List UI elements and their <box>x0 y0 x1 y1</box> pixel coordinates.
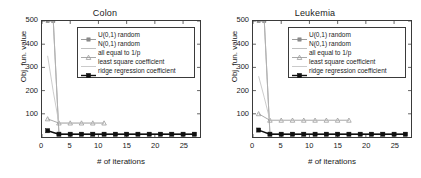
y-tick-label: 400 <box>219 40 249 48</box>
y-axis-label-colon: Obj. fun. value <box>19 18 28 96</box>
x-tick-label: 15 <box>117 142 137 150</box>
legend-marker-icon <box>291 48 308 57</box>
x-tick-label: 5 <box>271 142 291 150</box>
x-tick-label: 0 <box>242 142 262 150</box>
legend-leukemia: U(0,1) randomN(0,1) randomall equal to 1… <box>288 27 406 78</box>
x-tick-label: 0 <box>31 142 51 150</box>
y-tick-label: 300 <box>8 63 38 71</box>
legend-label: N(0,1) random <box>308 39 351 48</box>
x-axis-label-colon: # of iterations <box>41 157 201 166</box>
legend-marker-icon <box>80 48 97 57</box>
legend-marker-icon <box>291 30 308 39</box>
legend-marker-icon <box>80 57 97 66</box>
x-tick-label: 20 <box>356 142 376 150</box>
legend-item: least square coefficient <box>80 57 192 66</box>
x-tick-label: 10 <box>88 142 108 150</box>
y-tick-label: 200 <box>219 87 249 95</box>
legend-marker-icon <box>291 66 308 75</box>
y-tick-label: 100 <box>219 110 249 118</box>
legend-marker-icon <box>291 57 308 66</box>
legend-label: all equal to 1/p <box>308 48 351 57</box>
legend-item: all equal to 1/p <box>291 48 403 57</box>
legend-label: U(0,1) random <box>97 30 140 39</box>
panel-leukemia: Leukemia Obj. fun. value # of iterations… <box>210 0 420 178</box>
legend-label: all equal to 1/p <box>97 48 140 57</box>
legend-label: ridge regression coefficient <box>97 66 176 75</box>
legend-label: N(0,1) random <box>97 39 140 48</box>
y-axis-label-leukemia: Obj. fun. value <box>230 18 239 96</box>
panel-colon: Colon Obj. fun. value # of iterations 10… <box>0 0 210 178</box>
legend-item: ridge regression coefficient <box>80 66 192 75</box>
legend-item: N(0,1) random <box>80 39 192 48</box>
legend-colon: U(0,1) randomN(0,1) randomall equal to 1… <box>77 27 195 78</box>
y-tick-label: 500 <box>8 16 38 24</box>
legend-label: U(0,1) random <box>308 30 351 39</box>
x-axis-label-leukemia: # of iterations <box>252 157 412 166</box>
x-tick-label: 25 <box>174 142 194 150</box>
y-tick-label: 200 <box>8 87 38 95</box>
legend-marker-icon <box>80 39 97 48</box>
y-tick-label: 500 <box>219 16 249 24</box>
y-tick-label: 400 <box>8 40 38 48</box>
legend-item: all equal to 1/p <box>80 48 192 57</box>
legend-item: U(0,1) random <box>80 30 192 39</box>
legend-marker-icon <box>80 30 97 39</box>
x-tick-label: 10 <box>299 142 319 150</box>
x-tick-label: 20 <box>145 142 165 150</box>
y-tick-label: 100 <box>8 110 38 118</box>
legend-label: least square coefficient <box>308 57 375 66</box>
x-tick-label: 5 <box>60 142 80 150</box>
legend-item: least square coefficient <box>291 57 403 66</box>
legend-item: U(0,1) random <box>291 30 403 39</box>
x-tick-label: 15 <box>328 142 348 150</box>
y-tick-label: 300 <box>219 63 249 71</box>
legend-marker-icon <box>80 66 97 75</box>
legend-label: least square coefficient <box>97 57 164 66</box>
figure-two-panel-convergence: Colon Obj. fun. value # of iterations 10… <box>0 0 421 178</box>
legend-item: ridge regression coefficient <box>291 66 403 75</box>
x-tick-label: 25 <box>385 142 405 150</box>
legend-marker-icon <box>291 39 308 48</box>
legend-item: N(0,1) random <box>291 39 403 48</box>
legend-label: ridge regression coefficient <box>308 66 387 75</box>
